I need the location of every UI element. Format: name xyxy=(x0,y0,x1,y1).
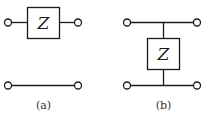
panel-a-series: Z (a) xyxy=(5,8,82,113)
two-port-diagram: Z (a) Z (b) xyxy=(0,0,210,120)
panel-b-shunt: Z (b) xyxy=(124,19,201,112)
caption-a: (a) xyxy=(36,99,51,112)
terminal-a-top-left xyxy=(5,19,12,26)
impedance-label-a: Z xyxy=(37,13,51,33)
terminal-b-bottom-left xyxy=(124,82,131,89)
terminal-b-bottom-right xyxy=(194,82,201,89)
terminal-a-bottom-left xyxy=(5,82,12,89)
impedance-label-b: Z xyxy=(157,44,171,64)
terminal-a-bottom-right xyxy=(75,82,82,89)
terminal-b-top-right xyxy=(194,19,201,26)
caption-b: (b) xyxy=(156,99,172,112)
terminal-b-top-left xyxy=(124,19,131,26)
terminal-a-top-right xyxy=(75,19,82,26)
